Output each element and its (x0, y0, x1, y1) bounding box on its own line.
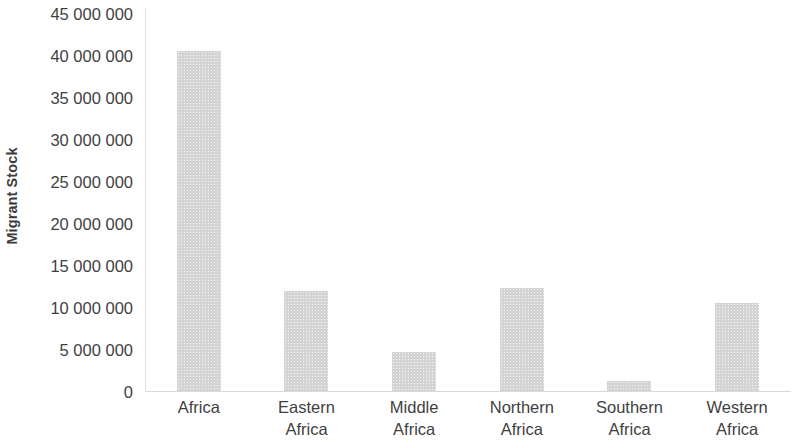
x-axis-label-line: Africa (360, 418, 468, 440)
bar[interactable] (177, 51, 221, 391)
x-axis-category-label: NorthernAfrica (468, 396, 576, 440)
y-axis-tick-label: 20 000 000 (50, 215, 133, 234)
y-axis-title: Migrant Stock (0, 0, 24, 392)
y-axis-tick-label: 35 000 000 (50, 89, 133, 108)
y-axis-tick-label: 25 000 000 (50, 173, 133, 192)
x-axis-category-label: WesternAfrica (683, 396, 791, 440)
x-axis-label-line: Africa (253, 418, 361, 440)
y-axis-tick-label: 30 000 000 (50, 131, 133, 150)
x-axis-category-label: SouthernAfrica (576, 396, 684, 440)
bar[interactable] (715, 303, 759, 391)
bar[interactable] (392, 352, 436, 391)
y-axis-tick-label: 5 000 000 (60, 341, 133, 360)
x-axis-category-labels: AfricaEasternAfricaMiddleAfricaNorthernA… (145, 396, 791, 448)
bar[interactable] (284, 291, 328, 391)
y-axis-tick-label: 45 000 000 (50, 5, 133, 24)
bar[interactable] (607, 381, 651, 391)
bar-slot (468, 8, 576, 391)
x-axis-label-line: Africa (145, 396, 253, 418)
x-axis-line (145, 391, 791, 392)
y-axis-tick-labels: 05 000 00010 000 00015 000 00020 000 000… (24, 0, 139, 400)
x-axis-label-line: Africa (468, 418, 576, 440)
plot-area (145, 8, 791, 392)
x-axis-label-line: Africa (683, 418, 791, 440)
x-axis-label-line: Middle (360, 396, 468, 418)
bar-series (145, 8, 791, 391)
x-axis-category-label: Africa (145, 396, 253, 418)
x-axis-label-line: Africa (576, 418, 684, 440)
bar-slot (683, 8, 791, 391)
bar-slot (145, 8, 253, 391)
y-axis-tick-label: 10 000 000 (50, 299, 133, 318)
bar-slot (253, 8, 361, 391)
x-axis-label-line: Southern (576, 396, 684, 418)
y-axis-tick-label: 0 (124, 383, 133, 402)
y-axis-tick-label: 40 000 000 (50, 47, 133, 66)
x-axis-label-line: Northern (468, 396, 576, 418)
x-axis-category-label: EasternAfrica (253, 396, 361, 440)
y-axis-title-text: Migrant Stock (4, 147, 20, 244)
bar-chart: Migrant Stock 05 000 00010 000 00015 000… (0, 0, 797, 448)
x-axis-label-line: Western (683, 396, 791, 418)
bar-slot (576, 8, 684, 391)
bar-slot (360, 8, 468, 391)
y-axis-tick-label: 15 000 000 (50, 257, 133, 276)
bar[interactable] (500, 288, 544, 391)
x-axis-label-line: Eastern (253, 396, 361, 418)
x-axis-category-label: MiddleAfrica (360, 396, 468, 440)
